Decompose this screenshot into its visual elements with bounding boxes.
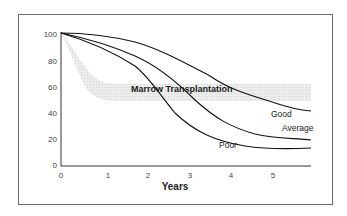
y-tick-labels: 0 20 40 60 80 100 [44,30,58,170]
y-tick-20: 20 [48,135,57,144]
survival-chart: 0 20 40 60 80 100 0 1 2 3 4 5 Years Marr… [0,0,347,216]
y-tick-60: 60 [48,83,57,92]
y-tick-100: 100 [44,30,58,39]
y-tick-80: 80 [48,57,57,66]
x-tick-0: 0 [59,171,64,180]
x-tick-3: 3 [188,171,193,180]
marrow-transplantation-label: Marrow Transplantation [131,84,233,94]
average-label: Average [282,123,314,133]
x-tick-4: 4 [229,171,234,180]
x-tick-1: 1 [106,171,111,180]
y-tick-40: 40 [48,109,57,118]
good-label: Good [271,109,292,119]
x-tick-labels: 0 1 2 3 4 5 [59,171,276,180]
x-tick-2: 2 [146,171,151,180]
x-tick-5: 5 [271,171,276,180]
poor-label: Poor [219,140,237,150]
y-tick-0: 0 [53,161,58,170]
x-axis-title: Years [162,181,189,192]
